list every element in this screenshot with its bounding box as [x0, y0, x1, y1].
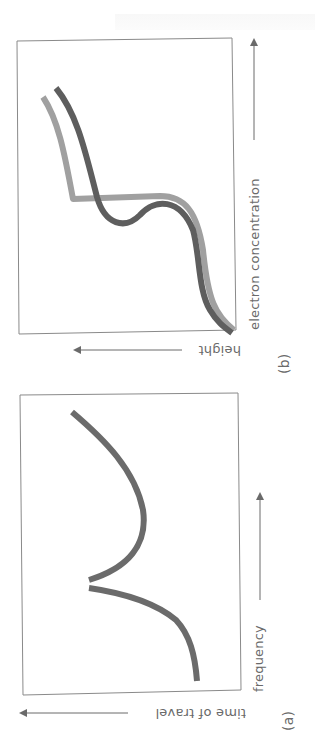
- panel-a-curve-upper: [72, 412, 144, 580]
- panel-a: [20, 393, 260, 713]
- panel-b-curve-dark: [56, 88, 232, 333]
- figure-canvas: [0, 0, 323, 748]
- panel-label-a: (a): [280, 711, 296, 731]
- y-axis-label-a: time of travel: [155, 706, 246, 721]
- x-axis-label-a: frequency: [251, 625, 266, 692]
- panel-a-frame: [20, 393, 241, 695]
- x-axis-label-b: electron concentration: [247, 178, 262, 330]
- panel-a-curve-lower: [89, 588, 197, 681]
- panel-b: [17, 38, 254, 350]
- y-axis-label-b: height: [198, 343, 241, 358]
- panel-label-b: (b): [276, 354, 292, 374]
